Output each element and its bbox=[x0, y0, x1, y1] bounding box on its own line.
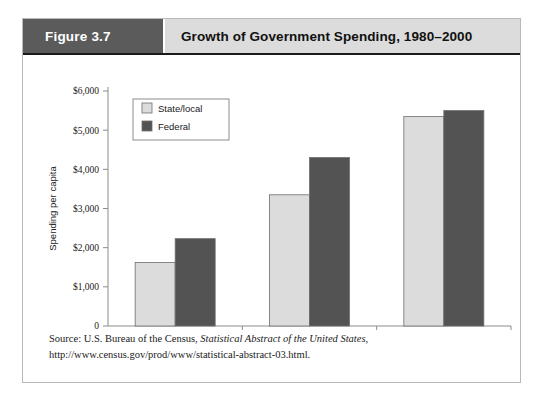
legend-swatch-state-local bbox=[142, 103, 152, 113]
figure-title-strip: Growth of Government Spending, 1980–2000 bbox=[163, 19, 520, 53]
y-axis-tick-label: $6,000 bbox=[73, 86, 99, 96]
source-prefix: Source: U.S. Bureau of the Census, bbox=[49, 333, 200, 344]
bar-chart: 0$1,000$2,000$3,000$4,000$5,000$6,000Spe… bbox=[23, 55, 520, 330]
legend-label-federal: Federal bbox=[158, 121, 190, 132]
y-axis-tick-label: $3,000 bbox=[73, 204, 99, 214]
figure-number-text: Figure 3.7 bbox=[45, 29, 111, 44]
source-text: Source: U.S. Bureau of the Census, Stati… bbox=[49, 331, 494, 363]
bar-1980-federal bbox=[175, 239, 215, 326]
bar-2000-federal bbox=[444, 111, 484, 326]
y-axis-tick-label: 0 bbox=[94, 321, 99, 330]
plot-root: 0$1,000$2,000$3,000$4,000$5,000$6,000Spe… bbox=[47, 86, 511, 330]
y-axis-tick-label: $4,000 bbox=[73, 165, 99, 175]
figure-header: Figure 3.7 Growth of Government Spending… bbox=[23, 19, 520, 55]
legend-label-state-local: State/local bbox=[158, 103, 202, 114]
source-note: Source: U.S. Bureau of the Census, Stati… bbox=[23, 331, 520, 363]
y-axis-title: Spending per capita bbox=[47, 166, 58, 251]
figure-title: Growth of Government Spending, 1980–2000 bbox=[181, 29, 472, 44]
bar-1980-state-local bbox=[135, 263, 175, 326]
source-publication-title: Statistical Abstract of the United State… bbox=[200, 333, 365, 344]
figure-frame: Figure 3.7 Growth of Government Spending… bbox=[22, 18, 521, 383]
bar-1990-state-local bbox=[270, 195, 310, 326]
legend-swatch-federal bbox=[142, 121, 152, 131]
y-axis-tick-label: $1,000 bbox=[73, 282, 99, 292]
bar-1990-federal bbox=[310, 158, 350, 326]
figure-number-badge: Figure 3.7 bbox=[23, 19, 163, 53]
chart-svg: 0$1,000$2,000$3,000$4,000$5,000$6,000Spe… bbox=[23, 55, 520, 330]
y-axis-tick-label: $5,000 bbox=[73, 126, 99, 136]
y-axis-tick-label: $2,000 bbox=[73, 243, 99, 253]
bar-2000-state-local bbox=[404, 116, 444, 326]
